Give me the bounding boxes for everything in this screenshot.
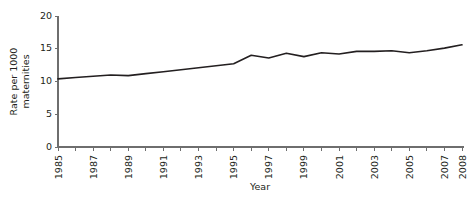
x-axis-title: Year xyxy=(249,181,270,192)
y-tick-label: 5 xyxy=(46,108,52,119)
chart-figure: 0510152019851987198919911993199519971999… xyxy=(0,0,476,201)
line-chart: 0510152019851987198919911993199519971999… xyxy=(0,0,476,201)
y-tick-label: 0 xyxy=(46,141,52,152)
x-tick-label: 1987 xyxy=(88,155,99,179)
x-tick-label: 1997 xyxy=(263,155,274,179)
x-tick-label: 2007 xyxy=(439,155,450,179)
data-series-line xyxy=(58,45,462,79)
x-tick-label: 2003 xyxy=(369,155,380,179)
x-tick-label: 1995 xyxy=(228,155,239,179)
x-tick-label: 2005 xyxy=(404,155,415,179)
y-tick-label: 15 xyxy=(40,42,52,53)
y-axis-title-line: maternities xyxy=(20,54,31,108)
x-tick-label: 1999 xyxy=(298,155,309,179)
y-tick-label: 20 xyxy=(40,10,52,21)
x-tick-label: 2001 xyxy=(334,155,345,179)
y-axis-title-line: Rate per 1000 xyxy=(8,48,19,116)
x-tick-label: 1991 xyxy=(158,155,169,179)
x-tick-label: 1989 xyxy=(123,155,134,179)
x-tick-label: 1993 xyxy=(193,155,204,179)
x-tick-label: 1985 xyxy=(53,155,64,179)
x-tick-label: 2008 xyxy=(457,155,468,179)
y-tick-label: 10 xyxy=(40,75,52,86)
